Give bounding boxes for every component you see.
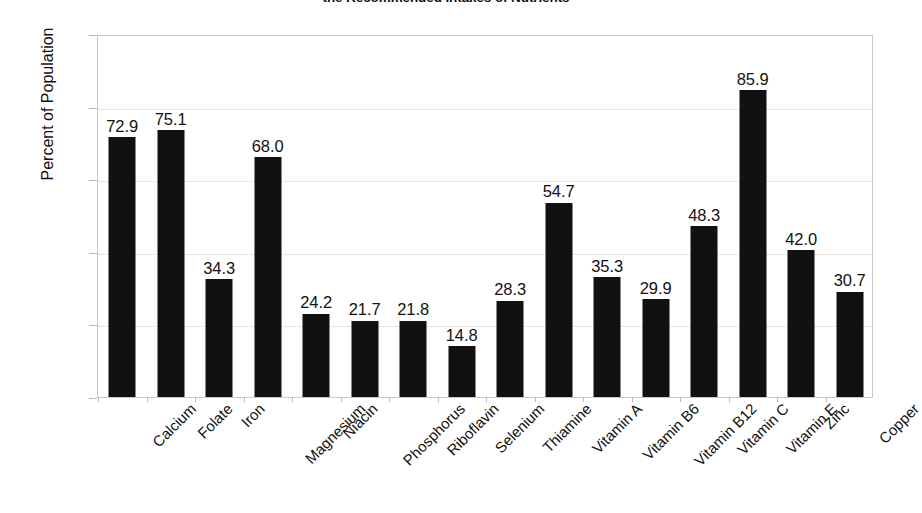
bar-group[interactable]: 29.9: [632, 36, 681, 397]
x-axis-category-label: Calcium: [149, 400, 199, 450]
bar-value-label: 24.2: [300, 294, 332, 311]
x-axis-category-label: Folate: [194, 400, 236, 442]
bar[interactable]: [400, 321, 427, 397]
bar-group[interactable]: 21.8: [389, 36, 438, 397]
bar[interactable]: [788, 250, 815, 397]
bar[interactable]: [303, 314, 330, 397]
x-axis-category-label: Thiamine: [539, 400, 595, 456]
bar-group[interactable]: 14.8: [438, 36, 487, 397]
y-axis-tick-mark: [89, 35, 97, 36]
bar-value-label: 54.7: [543, 183, 575, 200]
bar-group[interactable]: 68.0: [244, 36, 293, 397]
y-axis-tick-mark: [89, 180, 97, 181]
bar-group[interactable]: 42.0: [777, 36, 826, 397]
x-axis-tick-labels: CalciumFolateIronMagnesiumNiacinPhosphor…: [97, 400, 873, 513]
bar-group[interactable]: 35.3: [583, 36, 632, 397]
chart-title: the Recommended Intakes of Nutrients: [0, 0, 892, 10]
bar-value-label: 35.3: [591, 258, 623, 275]
bar-value-label: 68.0: [252, 138, 284, 155]
x-axis-category-label: Copper: [875, 400, 922, 447]
bar[interactable]: [691, 226, 718, 397]
bar-value-label: 48.3: [688, 207, 720, 224]
bar-group[interactable]: 72.9: [98, 36, 147, 397]
bar-group[interactable]: 28.3: [486, 36, 535, 397]
bar-value-label: 75.1: [155, 111, 187, 128]
bar-value-label: 30.7: [834, 272, 866, 289]
bar[interactable]: [351, 321, 378, 397]
bar-group[interactable]: 34.3: [195, 36, 244, 397]
bar-value-label: 28.3: [494, 281, 526, 298]
bar-value-label: 14.8: [446, 327, 478, 344]
bar[interactable]: [157, 130, 184, 397]
bar-group[interactable]: 30.7: [826, 36, 875, 397]
bar-group[interactable]: 85.9: [729, 36, 778, 397]
bar-value-label: 85.9: [737, 71, 769, 88]
y-axis-tick-mark: [89, 325, 97, 326]
x-axis-category-label: Iron: [238, 400, 268, 430]
bar[interactable]: [594, 277, 621, 397]
bar[interactable]: [836, 292, 863, 397]
bar[interactable]: [254, 157, 281, 397]
bar[interactable]: [109, 137, 136, 397]
bar-value-label: 29.9: [640, 280, 672, 297]
bar-value-label: 21.8: [397, 301, 429, 318]
bar-value-label: 21.7: [349, 301, 381, 318]
y-axis-tick-mark: [89, 108, 97, 109]
bar[interactable]: [497, 301, 524, 397]
x-axis-category-label: Vitamin A: [588, 400, 645, 457]
y-axis-tick-mark: [89, 398, 97, 399]
plot-area: 72.975.134.368.024.221.721.814.828.354.7…: [97, 35, 873, 398]
bar[interactable]: [739, 90, 766, 397]
y-axis-tick-mark: [89, 253, 97, 254]
bar-group[interactable]: 54.7: [535, 36, 584, 397]
x-axis-category-label: Selenium: [491, 400, 547, 456]
bar[interactable]: [545, 203, 572, 397]
bar-group[interactable]: 24.2: [292, 36, 341, 397]
bar-value-label: 34.3: [203, 260, 235, 277]
bar-value-label: 42.0: [785, 231, 817, 248]
bar[interactable]: [206, 279, 233, 397]
bar[interactable]: [642, 299, 669, 397]
bar-group[interactable]: 21.7: [341, 36, 390, 397]
bar-group[interactable]: 75.1: [147, 36, 196, 397]
bar[interactable]: [448, 346, 475, 397]
y-axis-title: Percent of Population: [39, 0, 57, 234]
bar-value-label: 72.9: [106, 118, 138, 135]
bar-group[interactable]: 48.3: [680, 36, 729, 397]
bar-series: 72.975.134.368.024.221.721.814.828.354.7…: [98, 36, 872, 397]
